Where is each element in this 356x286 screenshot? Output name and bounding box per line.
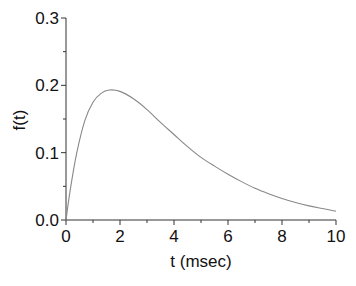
x-tick-label: 0 [61,227,70,246]
x-tick-label: 4 [169,227,178,246]
line-chart: 0.00.10.20.3 0246810 t (msec) f(t) [0,0,356,286]
data-series-line [66,90,336,220]
x-axis-title: t (msec) [170,252,231,271]
plot-area: 0.00.10.20.3 0246810 [35,9,345,246]
x-axis-ticks: 0246810 [61,220,345,246]
y-tick-label: 0.0 [35,211,59,230]
y-tick-label: 0.3 [35,9,59,28]
x-tick-label: 2 [115,227,124,246]
x-tick-label: 10 [327,227,346,246]
cropped-caption-fragment [0,279,200,286]
y-tick-label: 0.1 [35,144,59,163]
x-tick-label: 6 [223,227,232,246]
y-tick-label: 0.2 [35,76,59,95]
y-axis-title: f(t) [10,110,29,131]
x-tick-label: 8 [277,227,286,246]
y-axis-ticks: 0.00.10.20.3 [35,9,66,230]
